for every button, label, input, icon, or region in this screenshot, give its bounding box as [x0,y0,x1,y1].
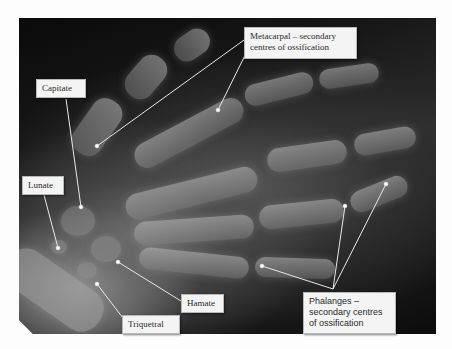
triquetral-label-text: Triquetral [128,319,164,329]
lunate-label: Lunate [22,176,64,195]
index-phalanx-bone [242,70,315,108]
ring-distal-bone [347,173,411,216]
metacarpal-label-line-2: centres of ossification [250,42,351,53]
lunate-bone [51,240,67,254]
triquetral-label: Triquetral [122,315,180,334]
index-distal-bone [318,62,380,90]
metacarpal-label-line-1: Metacarpal – secondary [250,31,351,42]
thumb-metacarpal-bone [66,92,128,161]
ring-phalanx-bone [258,198,345,231]
hamate-label-text: Hamate [187,298,215,308]
hand-xray-image [19,18,436,334]
capitate-bone [61,206,95,236]
lunate-label-text: Lunate [28,180,53,190]
phalanges-label-line-3: of ossification [309,318,390,329]
index-metacarpal-bone [130,93,248,172]
middle-metacarpal-bone [123,164,260,222]
phalanges-label-line-1: Phalanges – [309,296,390,307]
hamate-bone [91,236,121,262]
phalanges-label-line-2: secondary centres [309,307,390,318]
little-metacarpal-bone [138,246,250,279]
thumb-phalanx-bone [119,49,173,105]
capitate-label: Capitate [36,79,86,98]
middle-phalanx-bone [266,139,349,174]
little-phalanx-bone [255,257,336,280]
middle-distal-bone [353,125,418,157]
figure: Metacarpal – secondary centres of ossifi… [0,0,452,349]
hamate-label: Hamate [181,294,224,313]
ring-metacarpal-bone [133,214,254,246]
triquetral-bone [77,262,97,278]
thumb-distal-bone [169,23,215,66]
phalanges-label: Phalanges – secondary centres of ossific… [303,292,396,334]
capitate-label-text: Capitate [42,83,72,93]
metacarpal-label: Metacarpal – secondary centres of ossifi… [244,27,357,59]
